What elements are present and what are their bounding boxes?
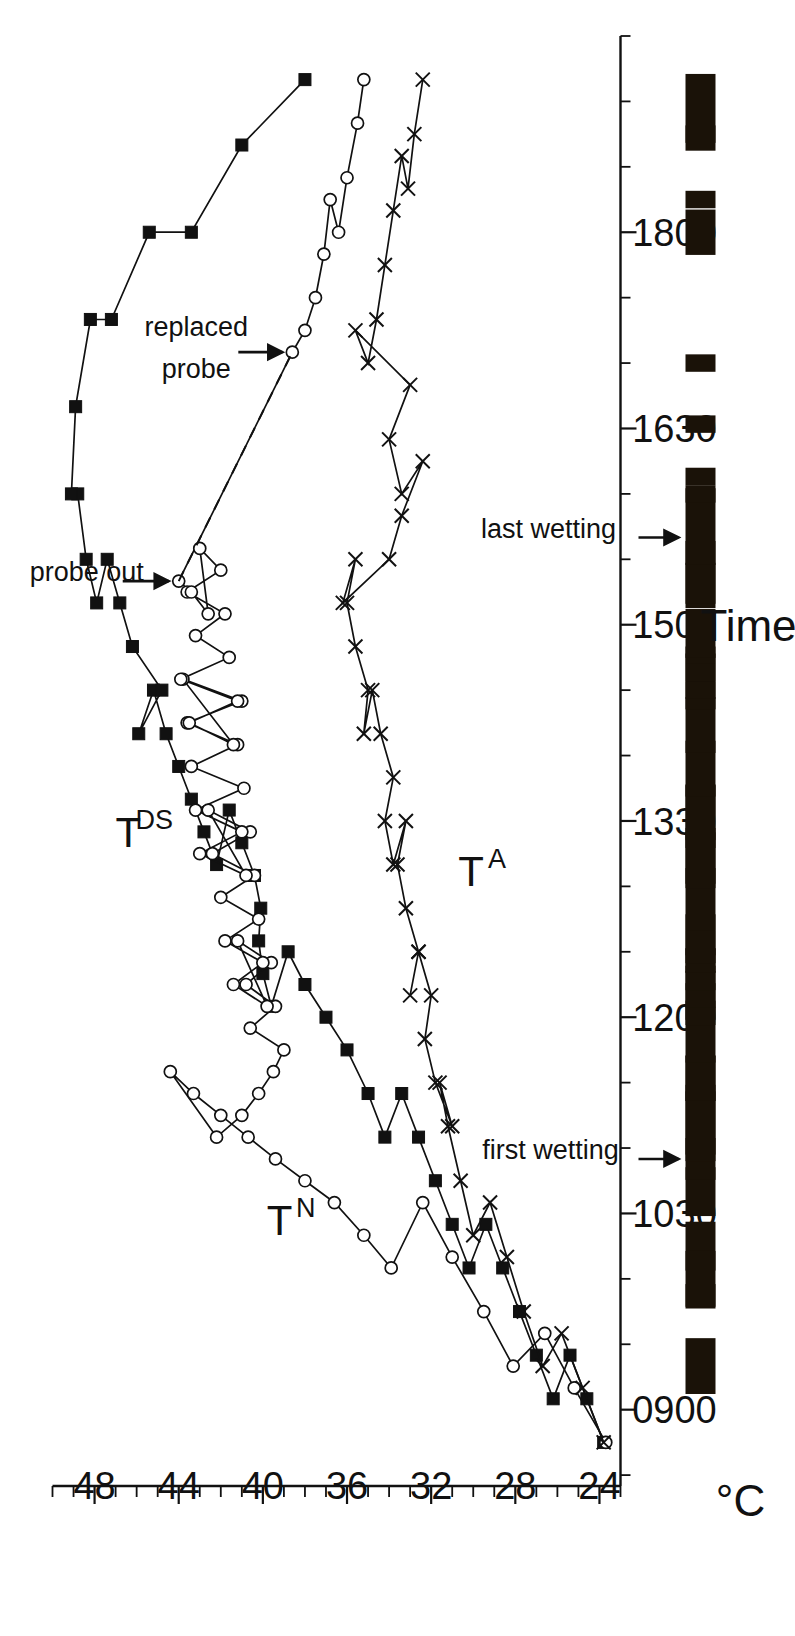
wetting-event-bar [685,1251,715,1307]
data-point-square [69,401,81,413]
data-point-circle [332,226,344,238]
data-point-circle [538,1327,550,1339]
wetting-event-bar [685,1091,715,1161]
annotation-probe-replaced-line2: replaced [144,312,248,342]
data-point-circle [298,324,310,336]
data-point-circle [210,1131,222,1143]
series-label-tds-sub: DS [135,805,173,835]
data-point-circle [341,172,353,184]
y-tick-label: 36 [325,1465,367,1507]
data-point-circle [416,1197,428,1209]
annotation-first-wetting: first wetting [482,1135,619,1165]
data-point-circle [214,1109,226,1121]
data-point-square [84,313,96,325]
chart-svg: 0900103012001330150016301800242832364044… [0,0,795,1636]
data-point-square [155,684,167,696]
data-point-circle [227,739,239,751]
data-point-circle [351,117,363,129]
data-point-circle [235,826,247,838]
data-point-circle [231,695,243,707]
wetting-event-bar [685,664,715,681]
data-point-circle [252,913,264,925]
data-point-circle [477,1306,489,1318]
data-point-circle [227,978,239,990]
series-label-ta-main: T [458,848,484,895]
data-point-square [378,1131,390,1143]
data-point-circle [267,1066,279,1078]
wetting-event-bar [685,1338,715,1394]
data-point-square [496,1262,508,1274]
data-point-circle [206,848,218,860]
data-point-circle [183,717,195,729]
y-tick-label: 24 [578,1465,620,1507]
data-point-square [341,1044,353,1056]
wetting-event-bar [685,468,715,485]
data-point-circle [189,804,201,816]
data-point-square [90,597,102,609]
data-point-square [463,1262,475,1274]
data-point-square [298,74,310,86]
data-point-circle [223,651,235,663]
data-point-square [132,728,144,740]
y-tick-label: 40 [241,1465,283,1507]
data-point-circle [385,1262,397,1274]
data-point-square [105,313,117,325]
data-point-circle [324,194,336,206]
data-point-square [160,728,172,740]
y-tick-label: 48 [73,1465,115,1507]
data-point-square [254,902,266,914]
data-point-circle [219,935,231,947]
y-tick-label: 32 [410,1465,452,1507]
series-label-tn-sub: N [295,1193,315,1223]
data-point-square [172,760,184,772]
data-point-square [412,1131,424,1143]
annotation-last-wetting: last wetting [480,514,615,544]
data-point-circle [240,978,252,990]
data-point-square [298,978,310,990]
data-point-circle [269,1153,281,1165]
data-point-circle [187,1088,199,1100]
data-point-circle [446,1251,458,1263]
data-point-square [429,1175,441,1187]
x-tick-label: 0900 [632,1389,717,1431]
data-point-square [252,935,264,947]
data-point-circle [235,1109,247,1121]
data-point-square [126,641,138,653]
data-point-square [547,1393,559,1405]
data-point-circle [357,74,369,86]
data-point-circle [244,1022,256,1034]
data-point-circle [172,575,184,587]
rotated-figure-container: 0900103012001330150016301800242832364044… [0,0,795,1636]
data-point-circle [599,1436,611,1448]
data-point-circle [242,1131,254,1143]
data-point-circle [174,673,186,685]
y-tick-label: 28 [494,1465,536,1507]
data-point-circle [507,1360,519,1372]
data-point-circle [193,848,205,860]
data-point-circle [231,935,243,947]
data-point-circle [202,608,214,620]
data-point-circle [237,782,249,794]
data-point-circle [202,804,214,816]
annotation-probe-replaced-line1: probe [161,354,230,384]
data-point-circle [193,542,205,554]
data-point-circle [286,346,298,358]
data-point-circle [298,1175,310,1187]
wetting-event-bar [685,354,715,371]
data-point-square [282,946,294,958]
data-point-circle [256,957,268,969]
data-point-square [319,1011,331,1023]
series-label-ta-sub: A [488,844,506,874]
wetting-event-bar [685,74,715,151]
data-point-circle [189,630,201,642]
data-point-square [395,1088,407,1100]
data-point-circle [185,760,197,772]
data-point-circle [219,608,231,620]
y-axis-title: °C [715,1476,764,1525]
data-point-circle [164,1066,176,1078]
data-point-square [223,804,235,816]
wetting-event-bar [685,191,715,208]
y-tick-label: 44 [157,1465,199,1507]
x-axis-title: Time [700,601,795,650]
data-point-circle [261,1000,273,1012]
